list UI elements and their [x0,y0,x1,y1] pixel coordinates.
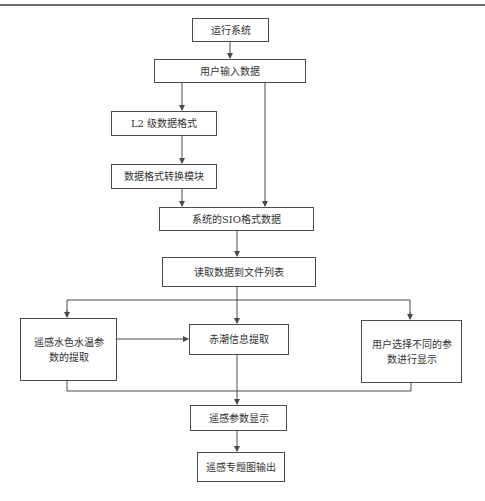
node-label: L2 级数据格式 [131,116,197,131]
node-param-display: 遥感参数显示 [190,405,287,431]
node-format-convert: 数据格式转换模块 [111,164,217,189]
node-label: 系统的SIO格式数据 [192,212,281,227]
node-sio-format: 系统的SIO格式数据 [159,207,314,231]
node-label: 用户输入数据 [200,64,260,79]
node-run-system: 运行系统 [192,18,269,42]
node-label: 数据格式转换模块 [124,169,204,184]
node-label: 遥感专题图输出 [206,460,276,475]
node-thematic-output: 遥感专题图输出 [197,452,285,482]
node-l2-format: L2 级数据格式 [111,111,217,136]
node-read-to-list: 读取数据到文件列表 [162,257,316,287]
node-label: 读取数据到文件列表 [194,265,284,280]
node-user-select-display: 用户选择不同的参数进行显示 [361,320,462,383]
node-label: 运行系统 [211,23,251,38]
node-label: 遥感水色水温参数的提取 [29,335,108,365]
node-user-input: 用户输入数据 [154,59,306,83]
merge-line [67,380,411,391]
node-label: 遥感参数显示 [209,411,269,426]
node-red-tide-extract: 赤潮信息提取 [189,324,289,355]
branch-line [67,300,410,319]
node-ocean-param-extract: 遥感水色水温参数的提取 [20,318,117,381]
node-label: 用户选择不同的参数进行显示 [370,337,453,367]
node-label: 赤潮信息提取 [209,332,269,347]
